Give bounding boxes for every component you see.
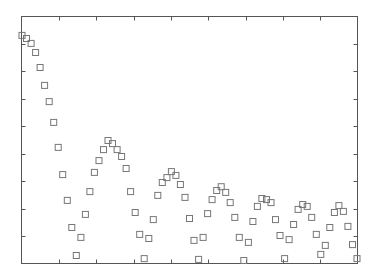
data-point-square (241, 258, 247, 264)
data-point-square (168, 169, 174, 175)
data-point-square (313, 231, 319, 237)
axis-ticks (22, 17, 358, 264)
data-point-square (309, 214, 315, 220)
data-point-square (282, 256, 288, 262)
data-point-square (73, 253, 79, 259)
data-point-square (46, 99, 52, 105)
data-point-square (327, 225, 333, 231)
data-point-square (119, 154, 125, 160)
data-point-square (150, 217, 156, 223)
data-point-square (173, 172, 179, 178)
data-point-square (345, 223, 351, 229)
data-point-square (64, 197, 70, 203)
data-point-square (232, 214, 238, 220)
data-point-square (87, 189, 93, 195)
data-point-square (55, 144, 61, 150)
data-point-square (227, 200, 233, 206)
data-point-square (78, 234, 84, 240)
data-point-square (200, 234, 206, 240)
data-point-square (82, 211, 88, 217)
data-point-square (273, 217, 279, 223)
data-point-square (177, 182, 183, 188)
data-point-square (245, 239, 251, 245)
scatter-plot (0, 0, 382, 280)
data-point-square (191, 237, 197, 243)
data-point-square (322, 242, 328, 248)
data-point-square (205, 211, 211, 217)
data-point-square (336, 203, 342, 209)
data-point-square (60, 172, 66, 178)
data-point-square (223, 189, 229, 195)
data-point-square (209, 197, 215, 203)
data-point-square (137, 231, 143, 237)
data-point-square (114, 147, 120, 153)
data-point-square (132, 210, 138, 216)
data-point-square (182, 194, 188, 200)
data-point-square (101, 147, 107, 153)
data-point-square (128, 189, 134, 195)
data-point-square (318, 251, 324, 257)
data-point-square (236, 234, 242, 240)
data-point-square (304, 203, 310, 209)
data-points (19, 32, 360, 263)
data-point-square (196, 256, 202, 262)
data-point-square (69, 225, 75, 231)
data-point-square (218, 184, 224, 190)
data-point-square (340, 208, 346, 214)
data-point-square (141, 256, 147, 262)
data-point-square (96, 158, 102, 164)
data-point-square (250, 219, 256, 225)
data-point-square (51, 119, 57, 125)
data-point-square (123, 166, 129, 172)
data-point-square (187, 216, 193, 222)
data-point-square (286, 237, 292, 243)
data-point-square (91, 169, 97, 175)
data-point-square (214, 188, 220, 194)
data-point-square (42, 82, 48, 88)
data-point-square (254, 203, 260, 209)
plot-frame (22, 17, 358, 264)
data-point-square (155, 192, 161, 198)
data-point-square (350, 242, 356, 248)
data-point-square (291, 222, 297, 228)
data-point-square (277, 233, 283, 239)
data-point-square (33, 50, 39, 56)
data-point-square (331, 210, 337, 216)
data-point-square (37, 65, 43, 71)
data-point-square (146, 236, 152, 242)
